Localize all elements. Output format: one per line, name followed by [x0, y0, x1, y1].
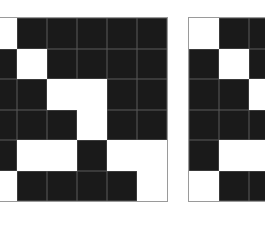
matrix-cell [77, 110, 107, 141]
matrix-cell [0, 110, 17, 141]
matrix-cell [107, 171, 137, 202]
matrix-cell [0, 79, 17, 110]
matrix-cell [219, 171, 249, 202]
matrix-cell [17, 171, 47, 202]
matrix-cell [77, 18, 107, 49]
matrix-cell [137, 49, 167, 80]
matrix-cell [189, 140, 219, 171]
matrix-cell [189, 171, 219, 202]
matrix-cell [77, 79, 107, 110]
matrix-cell [77, 171, 107, 202]
matrix-cell [47, 110, 77, 141]
matrix-cell [249, 171, 265, 202]
matrix-cell [47, 18, 77, 49]
matrix-cell [0, 171, 17, 202]
matrix-cell [249, 110, 265, 141]
matrix-cell [249, 18, 265, 49]
left-matrix [0, 17, 168, 202]
matrix-cell [219, 79, 249, 110]
matrix-cell [137, 18, 167, 49]
matrix-cell [107, 49, 137, 80]
matrix-cell [189, 110, 219, 141]
matrix-cell [219, 140, 249, 171]
matrix-cell [107, 140, 137, 171]
matrix-cell [17, 79, 47, 110]
matrix-cell [219, 110, 249, 141]
matrix-cell [0, 18, 17, 49]
matrix-cell [137, 110, 167, 141]
matrix-cell [107, 79, 137, 110]
matrix-cell [219, 18, 249, 49]
matrix-cell [137, 79, 167, 110]
matrix-cell [17, 140, 47, 171]
matrix-cell [249, 49, 265, 80]
matrix-cell [107, 18, 137, 49]
matrix-cell [249, 140, 265, 171]
matrix-cell [47, 79, 77, 110]
matrix-cell [17, 18, 47, 49]
matrix-cell [189, 79, 219, 110]
matrix-cell [249, 79, 265, 110]
matrix-cell [47, 171, 77, 202]
matrix-cell [17, 110, 47, 141]
matrix-cell [189, 18, 219, 49]
matrix-cell [0, 49, 17, 80]
matrix-cell [219, 49, 249, 80]
right-matrix [188, 17, 265, 202]
matrix-cell [47, 140, 77, 171]
matrix-cell [17, 49, 47, 80]
matrix-cell [189, 49, 219, 80]
matrix-cell [47, 49, 77, 80]
matrix-cell [0, 140, 17, 171]
matrix-cell [107, 110, 137, 141]
matrix-cell [77, 49, 107, 80]
matrix-cell [137, 171, 167, 202]
matrix-cell [137, 140, 167, 171]
matrix-cell [77, 140, 107, 171]
